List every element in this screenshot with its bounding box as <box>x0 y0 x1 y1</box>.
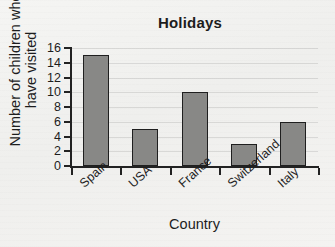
x-tick-mark <box>71 168 73 175</box>
x-tick-mark <box>318 168 320 175</box>
y-tick-label: 14 <box>47 57 61 70</box>
bar <box>132 129 158 166</box>
y-tick-label: 2 <box>54 145 61 158</box>
y-axis-title-line-1: Number of children who <box>7 0 23 147</box>
y-tick-label: 16 <box>47 42 61 55</box>
x-tick-mark <box>170 168 172 175</box>
x-axis-title: Country <box>71 216 318 232</box>
y-tick-label: 6 <box>54 116 61 129</box>
y-tick-label: 8 <box>54 101 61 114</box>
x-tick-mark <box>120 168 122 175</box>
x-tick-mark <box>269 168 271 175</box>
x-tick-mark <box>219 168 221 175</box>
bar <box>280 122 306 166</box>
y-tick-label: 0 <box>54 160 61 173</box>
bar <box>83 55 109 166</box>
y-tick-label: 4 <box>54 130 61 143</box>
chart-title: Holidays <box>60 14 320 31</box>
y-tick-label: 10 <box>47 86 61 99</box>
bar-chart: Holidays Number of children who have vis… <box>0 0 335 247</box>
y-axis-title: Number of children who have visited <box>1 0 45 145</box>
y-tick-label: 12 <box>47 71 61 84</box>
y-axis-title-line-2: have visited <box>23 32 39 109</box>
x-category-label: Italy <box>275 165 301 191</box>
